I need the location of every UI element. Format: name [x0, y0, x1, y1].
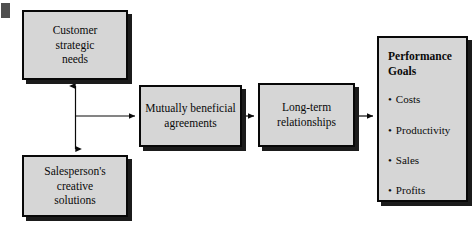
list-item: Costs	[388, 92, 466, 106]
node-customer-line-3: needs	[62, 52, 88, 67]
scan-edge-artifact	[1, 3, 10, 18]
list-item: Sales	[388, 153, 466, 167]
node-salesperson-line-2: creative	[57, 179, 93, 194]
list-item: Profits	[388, 183, 466, 197]
node-customer-strategic-needs[interactable]: Customer strategic needs	[22, 10, 128, 80]
node-agreements-line-2: agreements	[164, 116, 216, 131]
performance-goals-title-line-2: Goals	[388, 64, 466, 79]
node-mutually-beneficial-agreements[interactable]: Mutually beneficial agreements	[139, 85, 242, 147]
diagram-canvas: Customer strategic needs Salesperson's c…	[0, 0, 473, 236]
node-customer-line-1: Customer	[53, 23, 98, 38]
list-item: Productivity	[388, 123, 466, 137]
node-salesperson-line-1: Salesperson's	[44, 164, 105, 179]
node-performance-goals[interactable]: Performance Goals Costs Productivity Sal…	[377, 36, 468, 202]
performance-goals-title-line-1: Performance	[388, 49, 466, 64]
performance-goals-list: Costs Productivity Sales Profits	[388, 92, 466, 213]
node-relationships-line-1: Long-term	[282, 100, 331, 115]
node-salesperson-creative-solutions[interactable]: Salesperson's creative solutions	[22, 155, 128, 217]
performance-goals-title: Performance Goals	[388, 49, 466, 78]
node-relationships-line-2: relationships	[277, 115, 336, 130]
node-customer-line-2: strategic	[56, 38, 95, 53]
node-salesperson-line-3: solutions	[54, 193, 96, 208]
node-agreements-line-1: Mutually beneficial	[145, 101, 235, 116]
node-long-term-relationships[interactable]: Long-term relationships	[258, 83, 355, 147]
